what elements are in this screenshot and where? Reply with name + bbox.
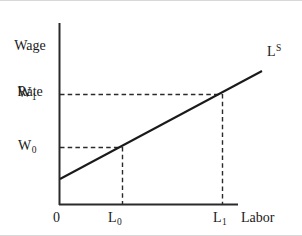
x-tick-label-l1: L1 [213,210,226,225]
labor-supply-curve-label-superscript: S [276,43,281,53]
x-tick-label-l1-text: L [213,210,222,225]
labor-supply-curve [60,71,262,179]
y-tick-label-w1-text: W [18,85,31,100]
y-tick-label-w1: W1 [18,85,36,100]
y-tick-label-w0: W0 [18,138,36,153]
labor-supply-figure: Wage Rate Labor W1 W0 0 L0 L1 LS [0,0,302,236]
y-tick-label-w0-subscript: 0 [32,145,37,155]
labor-supply-curve-label-text: L [267,44,276,59]
x-axis-title: Labor [241,210,293,225]
y-tick-label-w1-subscript: 1 [32,92,37,102]
labor-supply-curve-label: LS [267,44,281,59]
x-tick-label-l0: L0 [108,210,121,225]
x-tick-label-l0-subscript: 0 [117,217,122,227]
x-tick-label-l0-text: L [108,210,117,225]
y-tick-label-w0-text: W [18,138,31,153]
origin-label: 0 [53,210,60,225]
x-tick-label-l1-subscript: 1 [222,217,227,227]
y-axis-title: Wage Rate [4,8,56,129]
y-axis-title-line1: Wage [4,38,56,53]
